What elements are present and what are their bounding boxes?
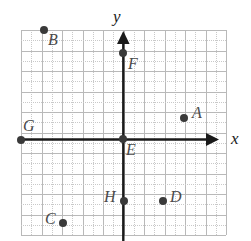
plotted-point-b bbox=[40, 26, 48, 34]
plotted-point-d bbox=[159, 197, 167, 205]
point-label-a: A bbox=[192, 105, 202, 121]
axes-svg bbox=[0, 0, 251, 241]
point-label-g: G bbox=[23, 118, 35, 134]
x-axis-label: x bbox=[231, 130, 239, 147]
y-axis-label: y bbox=[113, 8, 121, 25]
point-label-f: F bbox=[128, 56, 138, 72]
x-axis-arrowhead bbox=[206, 133, 219, 146]
coordinate-plane-figure: ABCDEFGH x y bbox=[0, 0, 251, 241]
point-label-b: B bbox=[48, 32, 58, 48]
point-label-d: D bbox=[170, 189, 182, 205]
axes bbox=[0, 0, 251, 241]
plotted-point-a bbox=[180, 114, 188, 122]
plotted-point-f bbox=[119, 49, 127, 57]
plotted-point-g bbox=[17, 136, 25, 144]
plotted-point-h bbox=[120, 197, 128, 205]
point-label-e: E bbox=[126, 142, 136, 158]
point-label-c: C bbox=[45, 211, 56, 227]
plotted-point-c bbox=[59, 219, 67, 227]
point-label-h: H bbox=[104, 189, 116, 205]
y-axis-arrowhead bbox=[117, 31, 130, 44]
